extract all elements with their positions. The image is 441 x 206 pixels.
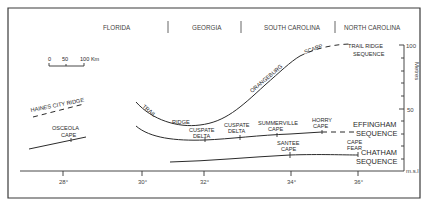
label-osceola-cape: OSCEOLA <box>52 125 79 131</box>
osceola-cape-line <box>29 137 86 149</box>
label-trail-ridge-sequence: TRAIL RIDGE <box>348 43 383 49</box>
svg-text:0: 0 <box>48 56 51 62</box>
svg-text:50: 50 <box>62 56 68 62</box>
label-orangeburg: ORANGEBURG <box>249 63 284 94</box>
chatham-sequence-line <box>170 155 358 162</box>
label-osceola-cape: CAPE <box>61 132 77 138</box>
label-cuspate-delta: DELTA <box>228 128 245 134</box>
label-haines-city-ridge: HAINES CITY RIDGE <box>30 97 85 113</box>
svg-text:28°: 28° <box>59 179 69 185</box>
region-georgia: GEORGIA <box>192 24 222 31</box>
x-axis: 28° 30° 32° 34° 36° <box>20 171 404 185</box>
label-trail: TRAIL <box>141 103 157 118</box>
label-effingham-sequence: EFFINGHAM <box>353 120 397 129</box>
svg-text:34°: 34° <box>287 179 297 185</box>
svg-text:m.s.l: m.s.l <box>406 168 419 174</box>
svg-text:50: 50 <box>407 107 414 113</box>
label-cuspate-delta: DELTA <box>193 133 210 139</box>
y-axis: 100 50 m.s.l Metres <box>399 43 420 174</box>
shoreline-sequence-diagram: FLORIDA GEORGIA SOUTH CAROLINA NORTH CAR… <box>0 0 441 206</box>
svg-text:36°: 36° <box>354 179 364 185</box>
scale-bar: 0 50 100 Km <box>48 56 100 66</box>
svg-text:32°: 32° <box>200 179 210 185</box>
svg-text:100: 100 <box>406 43 417 49</box>
region-north-carolina: NORTH CAROLINA <box>344 24 401 31</box>
label-ridge: RIDGE <box>172 119 190 125</box>
svg-text:30°: 30° <box>138 179 148 185</box>
label-chatham-sequence: SEQUENCE <box>356 157 398 166</box>
label-scarp: SCARP <box>303 43 323 55</box>
y-axis-label: Metres <box>414 62 420 80</box>
label-cape-fear: FEAR <box>347 145 362 151</box>
label-summerville-cape: CAPE <box>268 126 284 132</box>
label-santee-cape: CAPE <box>281 146 297 152</box>
label-effingham-sequence: SEQUENCE <box>356 129 398 138</box>
label-trail-ridge-sequence: SEQUENCE <box>353 51 385 57</box>
label-chatham-sequence: CHATHAM <box>361 148 397 157</box>
region-florida: FLORIDA <box>103 24 131 31</box>
label-horry-cape: CAPE <box>313 123 329 129</box>
svg-text:100 Km: 100 Km <box>80 56 100 62</box>
region-south-carolina: SOUTH CAROLINA <box>264 24 321 31</box>
